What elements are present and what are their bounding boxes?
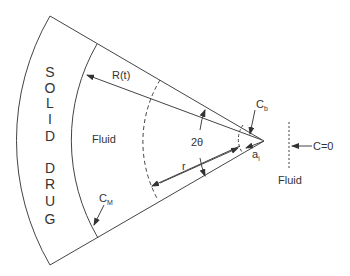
radius-label: R(t) [112,69,130,81]
radius-arrow [87,75,262,140]
diagram: S O L I D D R U G R(t) Fluid 2θ r Cb CM … [0,0,350,276]
apex-dashed-arc [238,125,243,152]
angle-arrow-top [200,110,205,130]
solid-letter: I [48,111,52,127]
dashed-arc [143,80,160,200]
fluid-inner-label: Fluid [92,133,116,145]
solid-letter: D [45,128,55,144]
cm-arrow [94,205,104,225]
solid-letter: S [45,64,54,80]
solid-letter: O [45,80,56,96]
r-arrow-right [160,148,238,183]
solid-letter: L [46,95,54,111]
ai-arrow [246,141,264,148]
cb-arrow [250,110,255,134]
angle-label: 2θ [191,136,203,148]
drug-letter: D [45,160,55,176]
c0-label: C=0 [313,140,334,152]
angle-arrow-bottom [200,158,205,176]
cm-label: CM [99,192,113,206]
drug-letter: G [45,211,56,227]
ai-label: ai [252,148,260,162]
drug-letter: R [45,176,55,192]
drug-letter: U [45,193,55,209]
r-label: r [182,160,186,172]
fluid-outer-label: Fluid [278,174,302,186]
diagram-svg: S O L I D D R U G R(t) Fluid 2θ r Cb CM … [0,0,350,276]
wedge-top-edge [50,16,264,141]
cb-label: Cb [256,98,268,112]
